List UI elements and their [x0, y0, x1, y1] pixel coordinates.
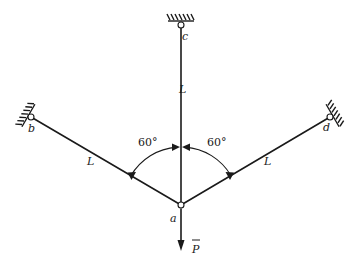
load-arrow-head — [178, 240, 185, 251]
length-label-ad: L — [263, 155, 271, 168]
node-label-b: b — [28, 122, 35, 135]
length-label-ab: L — [86, 155, 94, 168]
length-label-ac: L — [178, 83, 186, 96]
angle-arc-left-arrow-end — [172, 144, 180, 152]
pin-c-icon — [178, 22, 184, 28]
truss-diagram: c b d a L L L 60° 60° P — [0, 0, 360, 268]
angle-arc-right-arrow-start — [182, 144, 190, 152]
pin-d-icon — [327, 114, 333, 120]
angle-label-left: 60° — [138, 136, 158, 149]
node-label-d: d — [323, 121, 330, 134]
angle-arc-left — [131, 147, 177, 176]
member-ab — [31, 117, 181, 205]
load-label: P — [191, 243, 200, 256]
diagram-canvas: c b d a L L L 60° 60° P — [0, 0, 360, 268]
node-label-a: a — [170, 212, 177, 225]
pin-a-icon — [178, 202, 184, 208]
pin-b-icon — [28, 114, 34, 120]
node-label-c: c — [182, 30, 188, 43]
angle-arc-left-arrow-start — [128, 172, 137, 180]
member-ad — [181, 117, 330, 205]
support-c-icon — [167, 14, 194, 21]
angle-arc-right — [185, 147, 231, 175]
angle-label-right: 60° — [207, 136, 227, 149]
